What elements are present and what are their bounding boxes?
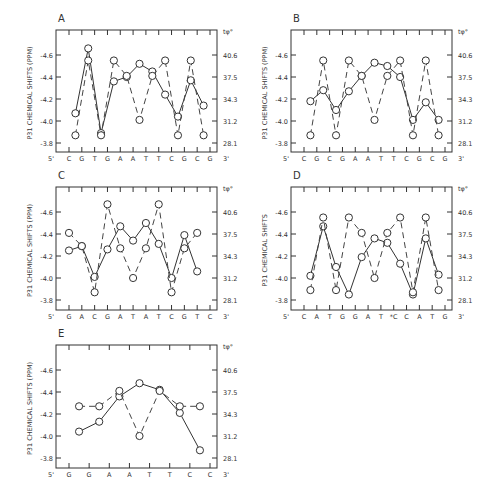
left-tick-label: -4.6: [40, 209, 53, 217]
torsion-line: [75, 61, 203, 136]
base-label: T: [92, 155, 97, 163]
right-tick-label: 34.3: [223, 411, 237, 419]
shift-point: [422, 235, 429, 242]
torsion-point: [409, 289, 416, 296]
shift-point: [117, 223, 124, 230]
torsion-point: [384, 229, 391, 236]
base-label: T: [378, 313, 383, 321]
torsion-point: [176, 403, 183, 410]
torsion-point: [181, 245, 188, 252]
torsion-point: [371, 274, 378, 281]
base-label: A: [366, 155, 371, 163]
torsion-point: [142, 245, 149, 252]
three-prime-label: 3': [458, 313, 464, 321]
torsion-point: [358, 72, 365, 79]
panel-e: EP31 CHEMICAL SHIFTS (PPM)-4.640.6-4.437…: [26, 328, 237, 479]
right-axis-label: tφ°: [458, 185, 468, 193]
base-label: G: [442, 155, 447, 163]
shift-point: [136, 380, 143, 387]
base-label: T: [130, 313, 135, 321]
left-tick-label: -4.2: [275, 253, 288, 261]
torsion-point: [75, 403, 82, 410]
right-tick-label: 40.6: [223, 52, 237, 60]
base-label: A: [131, 155, 136, 163]
shift-point: [155, 240, 162, 247]
torsion-point: [65, 229, 72, 236]
shift-point: [110, 78, 117, 85]
five-prime-label: 5': [283, 313, 289, 321]
base-label: C: [404, 155, 409, 163]
base-label: C: [169, 155, 174, 163]
right-tick-label: 34.3: [223, 96, 237, 104]
right-tick-label: 40.6: [223, 367, 237, 375]
left-tick-label: -3.8: [275, 297, 288, 305]
torsion-point: [117, 245, 124, 252]
base-label: T: [156, 313, 161, 321]
right-axis-label: tφ°: [458, 28, 468, 36]
base-label: G: [66, 471, 71, 479]
right-tick-label: 37.5: [458, 231, 472, 239]
base-label: A: [417, 313, 422, 321]
right-tick-label: 31.2: [223, 433, 237, 441]
torsion-point: [422, 214, 429, 221]
right-tick-label: 40.6: [458, 209, 472, 217]
right-tick-label: 37.5: [223, 231, 237, 239]
shift-point: [371, 59, 378, 66]
shift-point: [129, 237, 136, 244]
base-label: G: [417, 155, 422, 163]
shift-point: [371, 235, 378, 242]
torsion-point: [156, 387, 163, 394]
shift-point: [332, 106, 339, 113]
torsion-point: [384, 72, 391, 79]
left-tick-label: -4.6: [40, 367, 53, 375]
torsion-point: [345, 214, 352, 221]
three-prime-label: 3': [223, 155, 229, 163]
panel-a: AP31 CHEMICAL SHIFTS (PPM)-4.640.6-4.437…: [26, 13, 237, 163]
right-tick-label: 28.1: [223, 455, 237, 463]
torsion-point: [320, 214, 327, 221]
shift-point: [162, 91, 169, 98]
left-tick-label: -3.8: [40, 140, 53, 148]
left-tick-label: -4.0: [40, 118, 53, 126]
base-label: T: [327, 313, 332, 321]
left-tick-label: -3.8: [40, 297, 53, 305]
torsion-point: [104, 201, 111, 208]
shift-point: [75, 428, 82, 435]
torsion-point: [371, 116, 378, 123]
base-label: T: [194, 313, 199, 321]
torsion-point: [129, 274, 136, 281]
shift-point: [136, 60, 143, 67]
left-tick-label: -4.6: [275, 52, 288, 60]
left-tick-label: -4.4: [275, 231, 288, 239]
shift-point: [332, 263, 339, 270]
panel-label: C: [58, 170, 65, 181]
torsion-point: [96, 403, 103, 410]
base-label: C: [327, 155, 332, 163]
base-label: T: [378, 155, 383, 163]
torsion-point: [110, 57, 117, 64]
right-tick-label: 40.6: [458, 52, 472, 60]
torsion-point: [194, 229, 201, 236]
y-axis-label: P31 CHEMICAL SHIFTS (PPM): [26, 204, 34, 297]
left-tick-label: -4.0: [275, 275, 288, 283]
base-label: *C: [390, 313, 398, 321]
base-label: G: [314, 155, 319, 163]
figure: AP31 CHEMICAL SHIFTS (PPM)-4.640.6-4.437…: [0, 0, 487, 494]
right-tick-label: 31.2: [223, 275, 237, 283]
right-axis-label: tφ°: [223, 343, 233, 351]
torsion-point: [200, 132, 207, 139]
torsion-point: [187, 57, 194, 64]
right-tick-label: 40.6: [223, 209, 237, 217]
three-prime-label: 3': [223, 471, 229, 479]
torsion-point: [307, 287, 314, 294]
left-tick-label: -4.6: [275, 209, 288, 217]
y-axis-label: P31 CHEMICAL SHIFTS: [261, 214, 269, 287]
panel-label: B: [293, 13, 300, 24]
left-tick-label: -4.4: [40, 231, 53, 239]
torsion-point: [435, 132, 442, 139]
base-label: C: [404, 313, 409, 321]
base-label: C: [92, 313, 97, 321]
base-label: C: [195, 155, 200, 163]
shift-point: [104, 246, 111, 253]
torsion-point: [91, 289, 98, 296]
